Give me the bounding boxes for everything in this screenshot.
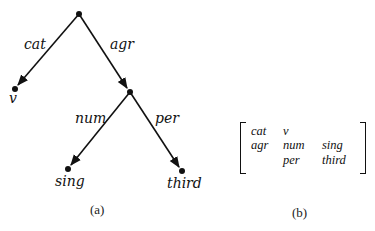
edge-label-agr: agr <box>110 36 135 52</box>
node-label-sing: sing <box>55 173 85 189</box>
node-root <box>76 11 82 17</box>
matrix-cell-num: num <box>283 139 305 152</box>
edge-label-cat: cat <box>24 36 46 52</box>
right-bracket <box>360 122 366 174</box>
node-label-v: v <box>9 90 17 106</box>
caption-b: (b) <box>292 205 307 220</box>
figure: cat agr num per v sing third (a) (b) cat… <box>0 0 375 231</box>
node-sing <box>65 166 71 172</box>
node-third <box>179 168 185 174</box>
left-bracket <box>240 122 246 174</box>
matrix-cell-per: per <box>283 154 300 167</box>
node-label-third: third <box>167 175 202 191</box>
edge-label-per: per <box>155 110 180 126</box>
attribute-value-matrix: cat v agr num sing per third <box>238 118 368 176</box>
matrix-cell-agr: agr <box>251 139 268 152</box>
feature-tree-graph: cat agr num per v sing third (a) (b) <box>0 0 375 231</box>
matrix-cell-v: v <box>283 125 289 138</box>
matrix-cell-cat: cat <box>251 125 266 138</box>
edge-num <box>71 92 130 165</box>
matrix-cell-third: third <box>322 154 346 167</box>
edge-per <box>130 92 179 167</box>
edge-label-num: num <box>75 110 106 126</box>
node-agr <box>127 89 133 95</box>
matrix-cell-sing: sing <box>322 139 343 152</box>
caption-a: (a) <box>90 202 104 217</box>
